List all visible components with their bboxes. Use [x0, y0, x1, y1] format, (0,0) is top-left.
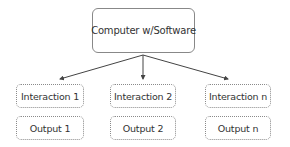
node-label: Interaction 2 [114, 91, 172, 102]
output-2-node: Output 2 [110, 116, 176, 140]
node-label: Output n [218, 123, 258, 134]
output-n-node: Output n [205, 116, 271, 140]
node-label: Interaction 1 [21, 91, 79, 102]
interaction-1-node: Interaction 1 [16, 84, 84, 108]
interaction-n-node: Interaction n [205, 84, 271, 108]
output-1-node: Output 1 [16, 116, 84, 140]
node-label: Output 2 [123, 123, 163, 134]
node-label: Output 1 [30, 123, 70, 134]
node-label: Computer w/Software [91, 25, 196, 36]
arrow-to-interaction-n [143, 55, 228, 79]
computer-software-node: Computer w/Software [92, 8, 195, 53]
node-label: Interaction n [209, 91, 267, 102]
arrow-to-interaction-1 [60, 55, 143, 79]
interaction-2-node: Interaction 2 [110, 84, 176, 108]
